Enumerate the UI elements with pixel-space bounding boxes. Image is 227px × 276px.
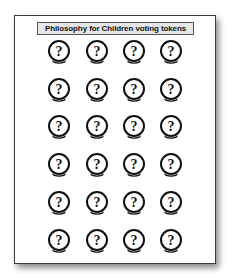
svg-text:?: ? <box>168 157 175 172</box>
voting-token: ? <box>84 228 110 254</box>
svg-text:?: ? <box>94 82 101 97</box>
svg-text:?: ? <box>94 195 101 210</box>
svg-text:?: ? <box>94 233 101 248</box>
svg-text:?: ? <box>94 119 101 134</box>
voting-token: ? <box>84 114 110 140</box>
document-page: Philosophy for Children voting tokens ? … <box>14 15 216 264</box>
question-mark-crystal-ball-icon: ? <box>46 39 72 65</box>
svg-text:?: ? <box>168 233 175 248</box>
voting-token: ? <box>46 114 72 140</box>
svg-text:?: ? <box>56 157 63 172</box>
question-mark-crystal-ball-icon: ? <box>46 190 72 216</box>
voting-token: ? <box>158 114 184 140</box>
voting-token: ? <box>158 39 184 65</box>
voting-token: ? <box>84 39 110 65</box>
question-mark-crystal-ball-icon: ? <box>84 228 110 254</box>
question-mark-crystal-ball-icon: ? <box>158 228 184 254</box>
question-mark-crystal-ball-icon: ? <box>46 114 72 140</box>
svg-text:?: ? <box>56 233 63 248</box>
question-mark-crystal-ball-icon: ? <box>121 190 147 216</box>
voting-token: ? <box>158 77 184 103</box>
page-title: Philosophy for Children voting tokens <box>37 22 194 35</box>
question-mark-crystal-ball-icon: ? <box>121 114 147 140</box>
svg-text:?: ? <box>94 44 101 59</box>
svg-text:?: ? <box>56 82 63 97</box>
voting-token: ? <box>46 39 72 65</box>
question-mark-crystal-ball-icon: ? <box>46 228 72 254</box>
question-mark-crystal-ball-icon: ? <box>158 152 184 178</box>
voting-token: ? <box>121 114 147 140</box>
svg-text:?: ? <box>56 195 63 210</box>
svg-text:?: ? <box>131 233 138 248</box>
question-mark-crystal-ball-icon: ? <box>84 190 110 216</box>
voting-token: ? <box>158 228 184 254</box>
voting-token: ? <box>121 190 147 216</box>
voting-token: ? <box>84 152 110 178</box>
svg-text:?: ? <box>131 44 138 59</box>
voting-token: ? <box>46 190 72 216</box>
question-mark-crystal-ball-icon: ? <box>121 77 147 103</box>
question-mark-crystal-ball-icon: ? <box>121 39 147 65</box>
svg-text:?: ? <box>168 195 175 210</box>
voting-token: ? <box>121 228 147 254</box>
voting-token: ? <box>46 228 72 254</box>
voting-token: ? <box>121 77 147 103</box>
question-mark-crystal-ball-icon: ? <box>84 152 110 178</box>
question-mark-crystal-ball-icon: ? <box>158 77 184 103</box>
question-mark-crystal-ball-icon: ? <box>158 39 184 65</box>
svg-text:?: ? <box>56 119 63 134</box>
question-mark-crystal-ball-icon: ? <box>46 77 72 103</box>
voting-token: ? <box>46 152 72 178</box>
question-mark-crystal-ball-icon: ? <box>121 228 147 254</box>
question-mark-crystal-ball-icon: ? <box>84 39 110 65</box>
question-mark-crystal-ball-icon: ? <box>84 114 110 140</box>
svg-text:?: ? <box>131 195 138 210</box>
question-mark-crystal-ball-icon: ? <box>158 190 184 216</box>
svg-text:?: ? <box>168 119 175 134</box>
question-mark-crystal-ball-icon: ? <box>46 152 72 178</box>
svg-text:?: ? <box>131 119 138 134</box>
voting-token: ? <box>46 77 72 103</box>
svg-text:?: ? <box>131 82 138 97</box>
question-mark-crystal-ball-icon: ? <box>158 114 184 140</box>
svg-text:?: ? <box>94 157 101 172</box>
question-mark-crystal-ball-icon: ? <box>84 77 110 103</box>
voting-token: ? <box>158 152 184 178</box>
voting-token: ? <box>158 190 184 216</box>
svg-text:?: ? <box>168 44 175 59</box>
voting-token: ? <box>121 152 147 178</box>
question-mark-crystal-ball-icon: ? <box>121 152 147 178</box>
voting-token: ? <box>84 190 110 216</box>
voting-token: ? <box>84 77 110 103</box>
svg-text:?: ? <box>168 82 175 97</box>
svg-text:?: ? <box>56 44 63 59</box>
voting-token: ? <box>121 39 147 65</box>
svg-text:?: ? <box>131 157 138 172</box>
